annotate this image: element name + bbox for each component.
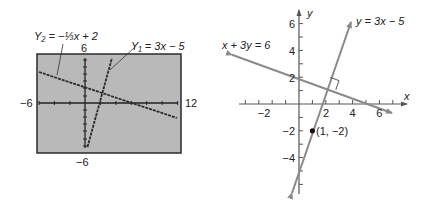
shallow-line-label: x + 3y = 6 — [221, 39, 271, 51]
coordinate-plane: −2 2 4 6 6 4 2 −2 −4 y x y = 3x − 5 x + … — [221, 7, 410, 194]
line-y-eq-3x-minus-5 — [292, 22, 351, 193]
y2-equation-label: Y₂ = −⅓x + 2 — [34, 30, 98, 42]
y-tick-label-2: 2 — [289, 72, 295, 84]
y1-equation-label: Y₁ = 3x − 5 — [131, 40, 185, 52]
x-tick-label-2: 2 — [323, 107, 329, 119]
figure-canvas: Y₂ = −⅓x + 2 Y₁ = 3x − 5 6 −6 12 −6 — [0, 0, 432, 220]
y-tick-label-4: 4 — [289, 45, 295, 57]
x-tick-label-6: 6 — [376, 107, 382, 119]
calc-ymax-label: 6 — [81, 42, 87, 54]
point-label: (1, −2) — [316, 125, 348, 137]
x-axis-label: x — [403, 90, 410, 102]
y-tick-label-neg4: −4 — [282, 152, 295, 164]
y-axis-label: y — [306, 7, 314, 19]
x-tick-label-4: 4 — [350, 107, 356, 119]
calc-xmax-label: 12 — [185, 97, 197, 109]
y-tick-label-neg2: −2 — [282, 125, 295, 137]
steep-line-label: y = 3x − 5 — [355, 15, 405, 27]
y-tick-label-6: 6 — [289, 18, 295, 30]
point-1-neg2 — [310, 128, 315, 133]
calc-xmin-label: −6 — [20, 97, 33, 109]
calculator-graph: Y₂ = −⅓x + 2 Y₁ = 3x − 5 6 −6 12 −6 — [20, 30, 197, 168]
x-tick-label-neg2: −2 — [258, 107, 271, 119]
calc-ymin-label: −6 — [76, 156, 89, 168]
